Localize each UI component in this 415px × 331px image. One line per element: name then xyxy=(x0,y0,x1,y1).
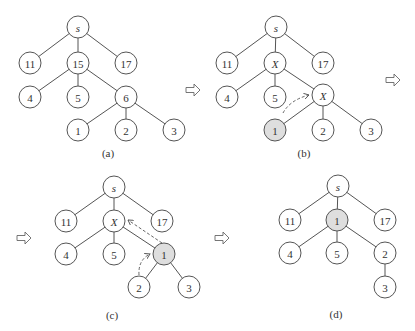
tree-node-x1: X xyxy=(264,52,286,74)
node-label: 3 xyxy=(382,282,388,294)
tree-node-n3: 3 xyxy=(163,119,185,141)
node-label: 3 xyxy=(368,125,374,137)
node-label: 4 xyxy=(287,248,293,260)
tree-node-n4: 4 xyxy=(216,86,238,108)
node-label: 5 xyxy=(111,249,117,261)
transition-arrow-icon xyxy=(215,232,229,244)
tree-node-n4: 4 xyxy=(19,86,41,108)
tree-node-n4: 4 xyxy=(279,242,301,264)
tree-node-n5: 5 xyxy=(103,243,125,265)
node-label: 2 xyxy=(136,282,142,294)
node-label: X xyxy=(319,90,328,102)
node-label: s xyxy=(76,22,80,34)
tree-node-n11: 11 xyxy=(216,52,238,74)
node-label: 17 xyxy=(318,58,330,70)
node-label: 4 xyxy=(27,92,33,104)
node-label: 17 xyxy=(121,58,133,70)
node-label: X xyxy=(271,58,280,70)
tree-node-n1-highlighted: 1 xyxy=(326,209,348,231)
node-label: 11 xyxy=(285,215,296,227)
tree-node-n3: 3 xyxy=(374,276,396,298)
tree-node-n1: 1 xyxy=(67,119,89,141)
tree-node-n2: 2 xyxy=(115,119,137,141)
tree-node-n3: 3 xyxy=(360,119,382,141)
tree-node-n5: 5 xyxy=(264,86,286,108)
node-label: 3 xyxy=(171,125,177,137)
node-label: s xyxy=(112,182,116,194)
node-label: 2 xyxy=(123,125,129,137)
node-label: 1 xyxy=(334,215,340,227)
node-label: 1 xyxy=(75,125,81,137)
panel-caption-b: (b) xyxy=(298,147,311,160)
tree-node-n17: 17 xyxy=(115,52,137,74)
tree-node-n5: 5 xyxy=(326,242,348,264)
tree-node-s: s xyxy=(327,175,349,197)
tree-node-n2: 2 xyxy=(128,276,150,298)
node-label: 11 xyxy=(61,216,72,228)
tree-node-n17: 17 xyxy=(312,52,334,74)
tree-node-n3: 3 xyxy=(178,276,200,298)
panel-caption-a: (a) xyxy=(102,147,115,160)
panel-c: s11X1745123 xyxy=(55,176,200,298)
tree-node-n17: 17 xyxy=(151,210,173,232)
node-label: 4 xyxy=(224,92,230,104)
tree-node-x1: X xyxy=(103,210,125,232)
node-label: 11 xyxy=(25,58,36,70)
tree-node-n11: 11 xyxy=(55,210,77,232)
tree-node-x2: X xyxy=(312,84,334,106)
node-label: 17 xyxy=(157,216,169,228)
dashed-move-arrow xyxy=(139,254,150,275)
node-label: 5 xyxy=(75,92,81,104)
node-label: 2 xyxy=(320,125,326,137)
node-label: 3 xyxy=(186,282,192,294)
node-label: X xyxy=(110,216,119,228)
node-label: s xyxy=(274,22,278,34)
transition-arrow-icon xyxy=(186,84,200,96)
tree-node-n5: 5 xyxy=(67,86,89,108)
tree-node-n1-highlighted: 1 xyxy=(264,119,286,141)
tree-node-n2: 2 xyxy=(312,119,334,141)
node-label: 5 xyxy=(334,248,340,260)
node-label: 1 xyxy=(272,125,278,137)
node-label: 2 xyxy=(382,248,388,260)
node-label: 15 xyxy=(73,58,85,70)
node-label: s xyxy=(336,181,340,193)
tree-node-n2: 2 xyxy=(374,242,396,264)
transition-arrow-icon xyxy=(386,74,400,86)
tree-node-s: s xyxy=(67,16,89,38)
node-label: 5 xyxy=(272,92,278,104)
tree-node-n4: 4 xyxy=(55,243,77,265)
panel-a: s111517456123 xyxy=(19,16,185,141)
tree-node-n15: 15 xyxy=(67,52,89,74)
node-label: 6 xyxy=(123,92,129,104)
node-label: 1 xyxy=(161,249,167,261)
tree-node-s: s xyxy=(265,16,287,38)
node-label: 17 xyxy=(380,215,392,227)
dashed-move-arrow xyxy=(283,95,309,113)
tree-node-n1-highlighted: 1 xyxy=(153,243,175,265)
panel-caption-d: (d) xyxy=(330,308,343,321)
tree-node-s: s xyxy=(103,176,125,198)
tree-node-n11: 11 xyxy=(19,52,41,74)
panel-caption-c: (c) xyxy=(106,309,119,322)
tree-transformation-diagram: s111517456123s11X1745X123s11X1745123s111… xyxy=(0,0,415,331)
tree-node-n6: 6 xyxy=(115,86,137,108)
tree-node-n11: 11 xyxy=(279,209,301,231)
tree-node-n17: 17 xyxy=(374,209,396,231)
transition-arrow-icon xyxy=(17,232,31,244)
node-label: 4 xyxy=(63,249,69,261)
node-label: 11 xyxy=(222,58,233,70)
